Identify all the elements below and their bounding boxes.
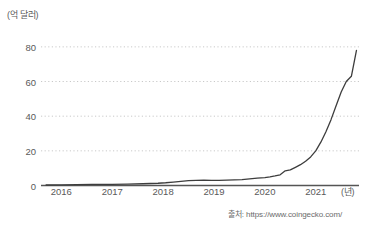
x-tick-label: 2018 (153, 186, 174, 197)
x-tick-label: 2021 (305, 186, 326, 197)
gridlines (41, 47, 359, 151)
x-tick-label: 2016 (51, 186, 72, 197)
plot-area (0, 0, 367, 238)
stablecoin-market-cap-chart: (억 달러) 020406080 20162017201820192020202… (0, 0, 367, 238)
x-tick-label: 2019 (203, 186, 224, 197)
source-note: 출처: https://www.coingecko.com/ (228, 208, 342, 219)
data-series-line (46, 50, 356, 185)
x-tick-label: 2020 (254, 186, 275, 197)
x-axis-unit-label: (년) (341, 185, 354, 198)
x-tick-label: 2017 (102, 186, 123, 197)
